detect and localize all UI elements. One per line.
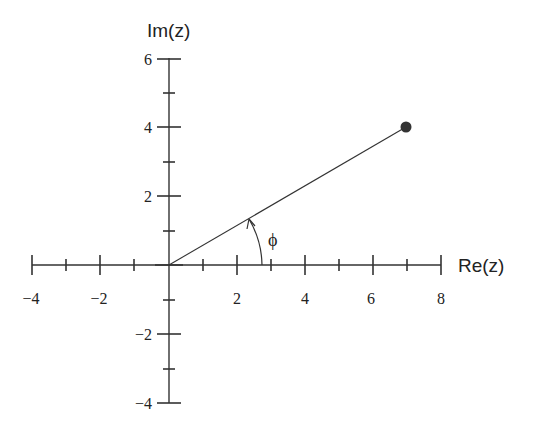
- angle-arc: [249, 219, 262, 265]
- x-tick-label: 2: [233, 290, 241, 307]
- x-tick-label: 6: [367, 290, 375, 307]
- y-tick-label: 6: [144, 51, 152, 68]
- complex-plane-diagram: −4 −2 2 4 6 8 6 4 2 −2 −4 Im(z) Re(z) ϕ: [0, 0, 535, 425]
- y-tick-label: 2: [144, 188, 152, 205]
- angle-label: ϕ: [268, 230, 277, 250]
- x-tick-label: 4: [301, 290, 309, 307]
- y-axis-label: Im(z): [147, 20, 190, 41]
- x-tick-label: −4: [22, 290, 39, 307]
- x-tick-label: 8: [437, 290, 445, 307]
- x-tick-label: −2: [90, 290, 107, 307]
- vector-line: [169, 127, 406, 265]
- y-tick-label: −2: [135, 326, 152, 343]
- y-tick-label: −4: [135, 395, 152, 412]
- point-marker: [401, 122, 412, 133]
- y-tick-label: 4: [144, 119, 152, 136]
- x-axis-label: Re(z): [458, 255, 504, 276]
